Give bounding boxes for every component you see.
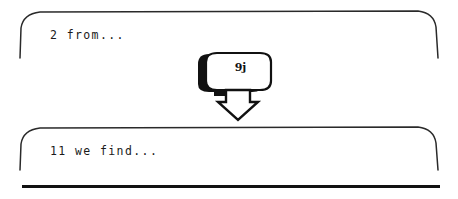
bottom-rule <box>22 185 440 188</box>
top-panel-text: 2 from... <box>50 30 125 42</box>
scanned-figure: 2 from... 9j 11 we find... <box>0 0 458 199</box>
down-arrow-button[interactable]: 9j <box>196 50 276 122</box>
bottom-panel: 11 we find... <box>18 124 442 172</box>
bottom-panel-text: 11 we find... <box>50 146 158 158</box>
down-arrow-button-graphic <box>196 50 276 122</box>
